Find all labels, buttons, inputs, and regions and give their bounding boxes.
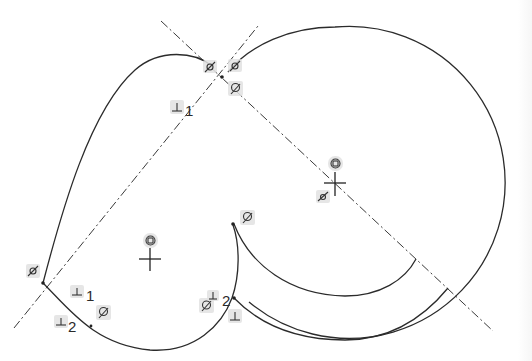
construction-line-1[interactable] bbox=[14, 26, 258, 328]
left-vertex-point[interactable] bbox=[41, 281, 45, 285]
left-curve[interactable] bbox=[43, 55, 212, 284]
perpendicular-icon[interactable] bbox=[228, 309, 242, 323]
parallel-icon[interactable] bbox=[203, 60, 217, 73]
tangent-icon[interactable] bbox=[240, 210, 255, 225]
parallel-icon[interactable] bbox=[26, 264, 40, 278]
canvas-edge bbox=[518, 0, 532, 361]
sketch-canvas[interactable]: 1 1 bbox=[0, 0, 532, 361]
parallel-icon[interactable] bbox=[316, 190, 330, 203]
perpendicular-label-1-bottom: 1 bbox=[86, 287, 94, 304]
arc-midpoint[interactable] bbox=[90, 325, 93, 328]
perpendicular-icon[interactable] bbox=[170, 100, 184, 114]
inner-arc[interactable] bbox=[234, 224, 416, 296]
tangent-icon[interactable] bbox=[228, 81, 243, 96]
perpendicular-label-2-bottom: 2 bbox=[68, 318, 76, 335]
inner-arc-start-point[interactable] bbox=[231, 222, 235, 226]
large-circle-arc[interactable] bbox=[228, 26, 505, 338]
perpendicular-label-1: 1 bbox=[185, 102, 193, 119]
concentric-icon[interactable] bbox=[143, 233, 158, 248]
perpendicular-label-2-right: 2 bbox=[222, 292, 230, 309]
sketch-drawing[interactable]: 1 1 bbox=[0, 0, 532, 361]
small-circle-center[interactable] bbox=[139, 248, 161, 271]
intersection-point[interactable] bbox=[220, 75, 224, 79]
junction-point[interactable] bbox=[232, 296, 236, 300]
perpendicular-icon[interactable] bbox=[54, 315, 68, 328]
perpendicular-icon[interactable] bbox=[207, 290, 219, 301]
perpendicular-icon[interactable] bbox=[70, 285, 84, 298]
tangent-icon[interactable] bbox=[96, 305, 111, 320]
parallel-icon[interactable] bbox=[228, 59, 242, 72]
concentric-icon[interactable] bbox=[328, 156, 343, 171]
